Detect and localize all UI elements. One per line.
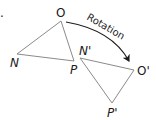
item-marker: . [0, 6, 4, 20]
triangle-n-prime-o-prime-p-prime [80, 58, 134, 103]
vertex-label-o-prime: O' [137, 64, 150, 78]
vertex-label-p-prime: P' [107, 106, 118, 120]
vertex-label-o: O [56, 6, 65, 20]
triangle-onp [17, 21, 74, 61]
rotation-diagram: . Rotation O N P N' O' P' [0, 0, 156, 120]
vertex-label-n-prime: N' [79, 44, 91, 58]
vertex-label-p: P [70, 63, 78, 77]
vertex-label-n: N [10, 56, 19, 70]
